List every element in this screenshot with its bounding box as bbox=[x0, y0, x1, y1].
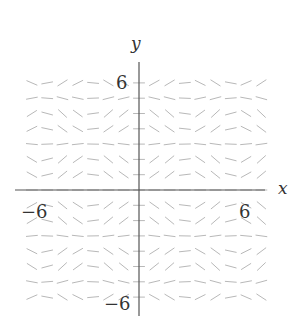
slope-segment bbox=[241, 264, 250, 270]
slope-segment bbox=[211, 126, 220, 132]
slope-segment bbox=[149, 281, 160, 284]
slope-segment bbox=[256, 97, 267, 100]
slope-segment bbox=[88, 251, 99, 252]
slope-segment bbox=[257, 126, 266, 133]
slope-segment bbox=[241, 97, 252, 99]
slope-segment bbox=[88, 82, 99, 83]
slope-segment bbox=[42, 265, 53, 268]
slope-segment bbox=[72, 97, 83, 99]
slope-segment bbox=[104, 80, 113, 86]
slope-segment bbox=[88, 113, 99, 114]
slope-segment bbox=[58, 156, 66, 163]
slope-segment bbox=[211, 248, 220, 254]
slope-segment bbox=[58, 126, 67, 132]
slope-segment bbox=[58, 248, 67, 254]
slope-segment bbox=[42, 281, 53, 282]
slope-segment bbox=[196, 110, 205, 116]
slope-segment bbox=[27, 81, 37, 85]
slope-segment bbox=[73, 202, 82, 208]
slope-segment bbox=[225, 173, 236, 176]
slope-segment bbox=[119, 126, 128, 132]
slope-segment bbox=[103, 143, 114, 144]
slope-segment bbox=[225, 98, 236, 99]
slope-segment bbox=[58, 171, 67, 178]
slope-segment bbox=[118, 97, 129, 100]
slope-segment bbox=[119, 172, 128, 178]
slope-segment bbox=[26, 235, 37, 236]
slope-segment bbox=[73, 217, 82, 223]
slope-segment bbox=[196, 217, 205, 223]
slope-segment bbox=[42, 112, 53, 115]
slope-segment bbox=[256, 235, 267, 237]
slope-segment bbox=[42, 250, 53, 252]
slope-segment bbox=[257, 248, 266, 255]
slope-segment bbox=[257, 217, 265, 224]
slope-segment bbox=[257, 110, 265, 118]
slope-segment bbox=[73, 156, 82, 162]
slope-segment bbox=[225, 296, 236, 298]
slope-segment bbox=[196, 172, 205, 178]
slope-segment bbox=[195, 126, 205, 131]
slope-segment bbox=[179, 174, 190, 175]
slope-segment bbox=[257, 171, 265, 178]
slope-segment bbox=[241, 235, 252, 236]
slope-segment bbox=[104, 156, 112, 163]
slope-segment bbox=[179, 128, 190, 129]
slope-segment bbox=[104, 202, 113, 209]
slope-segment bbox=[210, 97, 221, 100]
slope-segment bbox=[211, 110, 219, 117]
slope-segment bbox=[165, 217, 173, 224]
slope-segment bbox=[150, 126, 159, 132]
slope-segment bbox=[241, 172, 251, 177]
slope-segment bbox=[256, 280, 267, 283]
slope-segment bbox=[164, 97, 175, 100]
slope-segment bbox=[196, 156, 205, 162]
slope-segment bbox=[119, 263, 128, 270]
slope-segment bbox=[179, 205, 190, 206]
slope-segment bbox=[241, 81, 251, 85]
slope-segment bbox=[73, 80, 83, 85]
slope-segment bbox=[164, 143, 175, 144]
slope-segment bbox=[72, 144, 83, 145]
slope-segment bbox=[257, 156, 265, 163]
slope-segment bbox=[165, 80, 174, 86]
slope-field-diagram: y x 6 −6 −6 6 bbox=[0, 0, 300, 328]
slope-segment bbox=[225, 265, 236, 268]
slope-segment bbox=[257, 294, 266, 300]
x-tick-label-6: 6 bbox=[239, 201, 250, 222]
slope-segment bbox=[58, 110, 66, 117]
slope-segment bbox=[119, 248, 128, 254]
slope-segment bbox=[57, 143, 68, 144]
slope-segment bbox=[211, 263, 219, 270]
slope-segment bbox=[118, 143, 129, 144]
slope-segment bbox=[225, 112, 236, 115]
slope-segment bbox=[73, 110, 82, 116]
slope-segment bbox=[179, 251, 190, 252]
y-tick-label-neg6: −6 bbox=[104, 293, 131, 314]
slope-segment bbox=[118, 281, 129, 284]
slope-segment bbox=[88, 128, 99, 129]
slope-segment bbox=[42, 173, 53, 176]
slope-segment bbox=[225, 250, 236, 252]
slope-segment bbox=[149, 235, 160, 236]
slope-segment bbox=[165, 156, 173, 163]
slope-segment bbox=[210, 235, 221, 236]
slope-segment bbox=[57, 280, 68, 283]
slope-segment bbox=[179, 82, 190, 83]
slope-segment bbox=[150, 172, 159, 178]
slope-segment bbox=[149, 294, 159, 299]
slope-segment bbox=[26, 144, 37, 145]
slope-segment bbox=[118, 235, 129, 236]
slope-segment bbox=[241, 157, 250, 163]
slope-segment bbox=[195, 144, 206, 145]
slope-segment bbox=[58, 80, 67, 86]
slope-segment bbox=[225, 128, 236, 130]
slope-segment bbox=[58, 217, 66, 224]
slope-segment bbox=[165, 171, 174, 178]
slope-segment bbox=[119, 156, 128, 163]
slope-segment bbox=[42, 82, 53, 84]
slope-segment bbox=[73, 248, 83, 253]
slope-segment bbox=[73, 126, 83, 131]
slope-segment bbox=[211, 80, 220, 86]
slope-segment bbox=[150, 156, 159, 163]
